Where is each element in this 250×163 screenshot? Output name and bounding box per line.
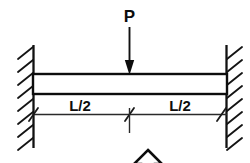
beam-diagram: P L/2 L/2 [0,0,250,163]
right-wall-hatching [227,47,242,150]
dimension-line-group [29,108,227,133]
load-label: P [124,7,135,26]
down-arrow-icon [125,60,134,75]
point-load-arrow [125,27,134,75]
right-fixed-support [227,45,243,150]
beam-diagram-canvas: P L/2 L/2 [0,0,250,163]
up-arrow-icon [134,150,162,163]
dimension-label-right: L/2 [169,97,191,114]
left-wall-hatching [18,47,33,150]
beam [33,74,227,94]
left-fixed-support [18,45,34,150]
dimension-label-left: L/2 [69,97,91,114]
